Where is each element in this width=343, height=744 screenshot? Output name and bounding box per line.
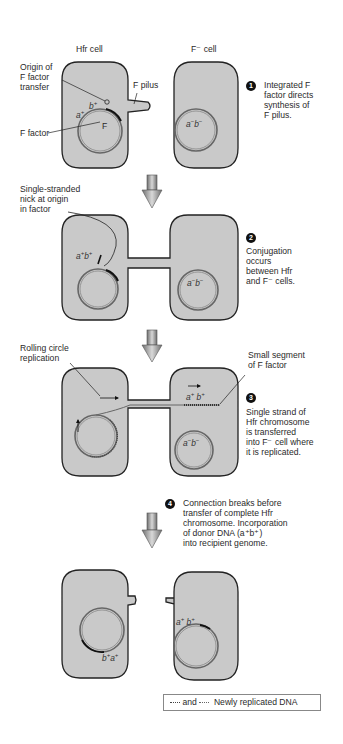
stage2-cells <box>62 212 238 320</box>
segment-label: Small segment of F factor <box>248 350 305 370</box>
step-3-number: 3 <box>246 393 256 403</box>
step-4-number: 4 <box>165 499 175 509</box>
step-4-text: Connection breaks before transfer of com… <box>183 498 288 548</box>
gene-ba-plus-4: b+a+ <box>102 652 118 663</box>
gene-ab-plus-3: a+ b+ <box>186 391 205 402</box>
legend: and Newly replicated DNA <box>163 694 321 711</box>
f-factor-label: F factor <box>20 128 49 138</box>
stage1-fminus-cell <box>174 62 238 168</box>
gene-a-plus-1: a+ <box>76 109 84 120</box>
step-3: 3 <box>246 392 256 403</box>
circle-f-label: F <box>102 121 107 131</box>
gene-ab-plus-4: a+ b+ <box>176 616 195 627</box>
step-2-number: 2 <box>246 233 256 243</box>
legend-dash-dark <box>170 702 180 703</box>
gene-a-minus-b-minus-1: a−b− <box>186 118 202 129</box>
stage4-hfr-cell <box>62 570 136 678</box>
gene-ab-minus-2: a−b− <box>187 277 203 288</box>
legend-label: Newly replicated DNA <box>214 697 298 707</box>
legend-and: and <box>182 697 196 707</box>
hfr-cell-title: Hfr cell <box>76 44 103 54</box>
gene-b-plus-1: b+ <box>89 100 97 111</box>
step-1-number: 1 <box>246 81 256 91</box>
step-2: 2 <box>246 232 256 243</box>
step-1-text: Integrated F factor directs synthesis of… <box>264 80 313 120</box>
rolling-label: Rolling circle replication <box>20 343 69 363</box>
step-1: 1 <box>246 80 256 91</box>
step-3-text: Single strand of Hfr chromosome is trans… <box>246 407 314 457</box>
fminus-cell-title: F⁻ cell <box>191 44 217 54</box>
gene-ab-plus-2: a+b+ <box>76 250 92 261</box>
step-2-text: Conjugation occurs between Hfr and F⁻ ce… <box>246 246 295 286</box>
down-arrow-1 <box>142 175 162 208</box>
gene-ab-minus-3: a−b− <box>183 437 199 448</box>
stage1-hfr-cell <box>48 62 150 168</box>
down-arrow-3 <box>142 513 162 548</box>
step-4: 4 <box>165 498 175 509</box>
stage3-cells <box>62 363 245 476</box>
legend-dash-light <box>199 702 209 703</box>
f-pilus-label: F pilus <box>133 80 158 90</box>
origin-label: Origin of F factor transfer <box>20 62 52 92</box>
down-arrow-2 <box>142 330 162 362</box>
nick-label: Single-stranded nick at origin in factor <box>20 184 80 214</box>
